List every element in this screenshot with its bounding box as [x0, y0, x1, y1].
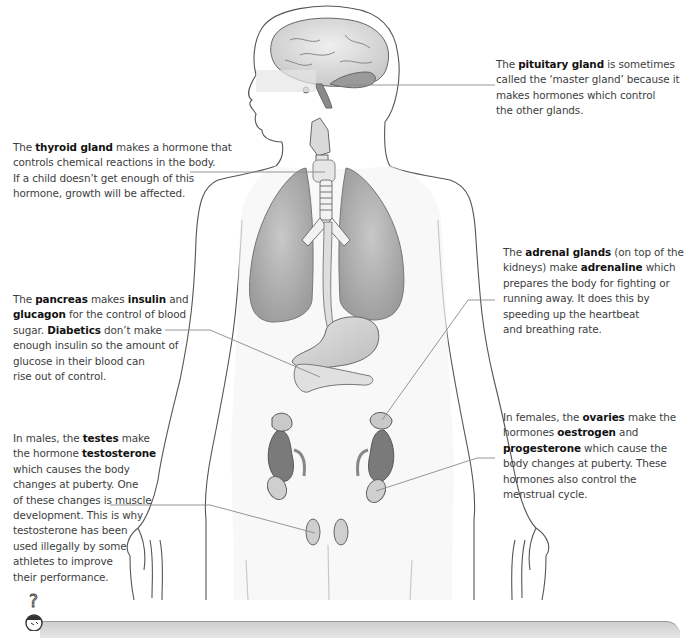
term-adrenaline: adrenaline — [581, 261, 643, 273]
term-pancreas: pancreas — [35, 293, 88, 305]
term-insulin: insulin — [128, 293, 166, 305]
thyroid-gland — [313, 160, 335, 182]
term-testosterone: testosterone — [82, 447, 156, 459]
callout-testes: In males, the testes make the hormone te… — [13, 431, 163, 585]
term-glucagon: glucagon — [13, 308, 66, 320]
larynx — [310, 118, 330, 163]
testis-right — [334, 519, 348, 545]
term-adrenal-glands: adrenal glands — [525, 246, 611, 258]
term-testes: testes — [83, 432, 119, 444]
term-thyroid-gland: thyroid gland — [35, 141, 113, 153]
callout-pancreas: The pancreas makes insulin and glucagon … — [13, 292, 203, 384]
nasal-area — [256, 70, 316, 92]
testis-left — [306, 519, 320, 545]
callout-pituitary: The pituitary gland is sometimes called … — [496, 57, 685, 119]
callout-ovaries: In females, the ovaries make the hormone… — [503, 410, 685, 502]
callout-thyroid: The thyroid gland makes a hormone that c… — [13, 140, 238, 202]
term-ovaries: ovaries — [583, 411, 625, 423]
term-pituitary-gland: pituitary gland — [518, 58, 604, 70]
callout-adrenal: The adrenal glands (on top of the kidney… — [503, 245, 685, 337]
term-diabetics: Diabetics — [47, 324, 101, 336]
term-oestrogen: oestrogen — [557, 426, 616, 438]
adrenal-gland-left — [272, 413, 292, 431]
brain — [271, 18, 389, 108]
adrenal-gland-right — [370, 413, 392, 430]
svg-text:?: ? — [29, 591, 38, 611]
tip-banner-bar — [40, 621, 680, 638]
term-progesterone: progesterone — [503, 442, 581, 454]
question-mark-thinking-face-icon: ? — [18, 590, 54, 631]
